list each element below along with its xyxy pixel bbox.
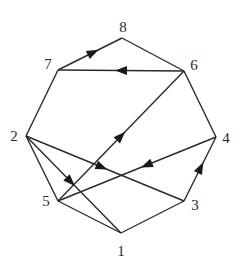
arrowhead-icon	[86, 46, 101, 59]
node-label-6: 6	[190, 57, 198, 73]
arrowhead-icon	[139, 159, 154, 172]
arrowhead-icon	[194, 160, 207, 175]
edge-8-6	[122, 38, 184, 71]
node-label-7: 7	[44, 56, 52, 72]
graph-diagram: 12345678	[0, 0, 239, 263]
node-label-5: 5	[42, 193, 50, 209]
node-label-8: 8	[119, 19, 127, 35]
edge-4-5	[58, 137, 216, 201]
edge-2-7	[26, 70, 58, 136]
node-label-1: 1	[117, 243, 125, 259]
edge-1-3	[121, 201, 184, 233]
edge-1-5	[58, 201, 121, 233]
arrowhead-icon	[95, 161, 110, 174]
arrows-layer	[63, 46, 207, 189]
node-label-3: 3	[191, 197, 199, 213]
edge-2-5	[26, 136, 58, 201]
node-label-2: 2	[10, 128, 18, 144]
node-label-4: 4	[222, 130, 230, 146]
edge-6-4	[184, 71, 216, 137]
arrowhead-icon	[115, 66, 127, 75]
